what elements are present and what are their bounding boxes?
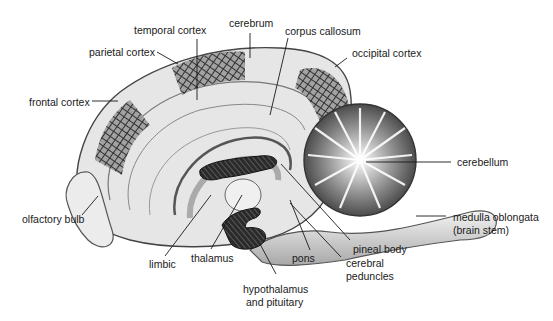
brain-diagram: temporal cortex cerebrum corpus callosum… [0, 0, 553, 321]
label-frontal-cortex: frontal cortex [29, 96, 90, 108]
cerebellum-shape [304, 104, 416, 216]
label-cerebral-peduncles: cerebral [346, 257, 384, 269]
label-thalamus: thalamus [191, 252, 234, 264]
label-olfactory-bulb: olfactory bulb [22, 213, 84, 225]
label-limbic: limbic [149, 258, 176, 270]
label-occipital-cortex: occipital cortex [352, 47, 421, 59]
label-cerebral-peduncles-2: peduncles [346, 270, 394, 282]
label-hypothalamus: hypothalamus [243, 283, 308, 295]
label-pituitary: and pituitary [246, 296, 303, 308]
label-cerebrum: cerebrum [229, 17, 273, 29]
label-cerebellum: cerebellum [457, 156, 508, 168]
label-corpus-callosum: corpus callosum [285, 25, 361, 37]
label-pons: pons [292, 252, 315, 264]
label-medulla-oblongata: medulla oblongata [453, 211, 539, 223]
label-parietal-cortex: parietal cortex [89, 46, 155, 58]
midbrain-sphere [225, 179, 261, 211]
label-pineal-body: pineal body [353, 243, 407, 255]
label-temporal-cortex: temporal cortex [134, 24, 206, 36]
label-brain-stem: (brain stem) [453, 224, 509, 236]
